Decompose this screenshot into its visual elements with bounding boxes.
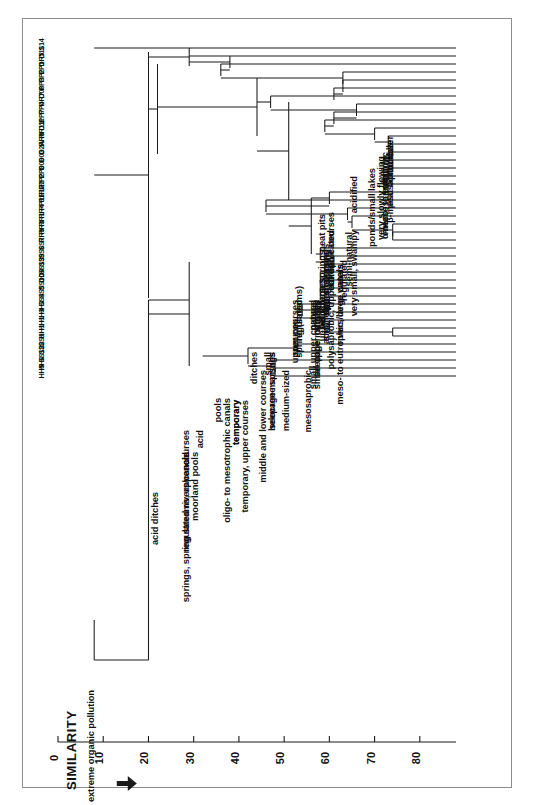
axis-title: SIMILARITY (64, 710, 79, 790)
cluster-label: spring streams (320, 250, 331, 316)
axis-tick-label: 10 (93, 752, 105, 764)
axis-tick-label: 70 (365, 752, 377, 764)
leaf-label-group: S14D11DR5PP1PP2PP3D06DR7PP4PP7D11RR11RR8… (37, 38, 46, 378)
cluster-label: springs, spring streams, upper courses (180, 430, 191, 602)
cluster-label: acidified (348, 176, 359, 214)
cluster-label: upper courses (289, 300, 300, 363)
axis-tick-label: 40 (229, 752, 241, 764)
cluster-label: pools (212, 398, 223, 423)
cluster-label: temporary, upper courses (239, 400, 250, 513)
cluster-label: middle (384, 140, 395, 170)
axis-tick-label: 0 (48, 755, 60, 761)
axis-tick-label: 30 (184, 752, 196, 764)
leaf-label: HH5 (37, 365, 46, 379)
similarity-axis: 01020304050607080SIMILARITY (48, 710, 456, 791)
axis-tick-label: 60 (319, 752, 331, 764)
cluster-label: semi-natural (343, 232, 354, 287)
axis-tick-label: 50 (274, 752, 286, 764)
cluster-label: extreme organic pollution (85, 690, 96, 802)
dendrogram-figure: S14D11DR5PP1PP2PP3D06DR7PP4PP7D11RR11RR8… (0, 0, 536, 805)
axis-tick-label: 20 (138, 752, 150, 764)
cluster-label: helocrene springs (266, 352, 277, 431)
arrow-right-icon (117, 776, 137, 791)
cluster-label: acid (194, 430, 205, 449)
axis-tick-label: 80 (410, 752, 422, 764)
dendrogram-plot: S14D11DR5PP1PP2PP3D06DR7PP4PP7D11RR11RR8… (0, 0, 536, 805)
cluster-label: medium-sized (280, 370, 291, 432)
cluster-label: acid ditches (149, 492, 160, 545)
cluster-label-group: extreme organic pollutionacidifiedregula… (85, 136, 395, 803)
